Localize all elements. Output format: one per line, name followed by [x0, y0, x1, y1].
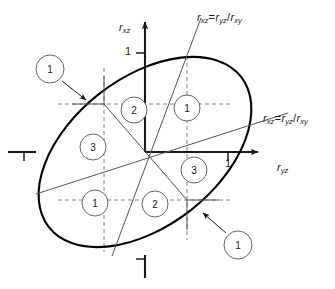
sector-upper-right: 1	[174, 95, 200, 121]
sector-lower-left: 1	[82, 190, 108, 216]
callout-lower-right-label: 1	[235, 240, 241, 251]
callout-upper-left-label: 1	[47, 64, 53, 75]
sector-lower-right-label: 2	[152, 199, 158, 210]
steep-line-formula-label: rxz=ryz/rxy	[197, 12, 242, 24]
sector-upper-left-label: 2	[131, 105, 137, 116]
shallow-num-sub: yz	[285, 117, 293, 126]
steep-den-sub: xy	[234, 16, 242, 25]
sector-line-group	[36, 18, 288, 256]
steep-num-sub: yz	[219, 16, 227, 25]
callout-lower-right: 1	[203, 213, 252, 259]
shallow-den-sub: xy	[300, 117, 308, 126]
vertical-axis-label: rxz	[119, 22, 130, 34]
diagram-canvas: 2 1 3 3 1 2	[0, 0, 335, 289]
horizontal-axis-label-sub: yz	[281, 166, 289, 175]
tick-label-vertical-positive: 1	[125, 46, 131, 57]
sector-left: 3	[80, 134, 106, 160]
shallow-line-formula-label: rxz=ryz/rxy	[263, 113, 308, 125]
horizontal-axis-label: ryz	[277, 162, 288, 174]
sector-left-label: 3	[90, 142, 96, 153]
callout-upper-left: 1	[36, 55, 86, 100]
diagram-svg: 2 1 3 3 1 2	[0, 0, 335, 289]
sector-lower-left-label: 1	[92, 198, 98, 209]
sector-right: 3	[181, 157, 207, 183]
sector-lower-right: 2	[142, 191, 168, 217]
callout-lower-right-leader	[203, 213, 226, 233]
vertical-axis-label-sub: xz	[123, 26, 131, 35]
sector-bubble-group: 2 1 3 3 1 2	[80, 95, 207, 217]
tick-label-horizontal-positive: 1	[225, 158, 231, 169]
sector-upper-right-label: 1	[184, 103, 190, 114]
callout-upper-left-leader	[62, 81, 86, 100]
sector-right-label: 3	[191, 165, 197, 176]
sector-upper-left: 2	[121, 97, 147, 123]
sector-line-shallow	[36, 113, 288, 194]
